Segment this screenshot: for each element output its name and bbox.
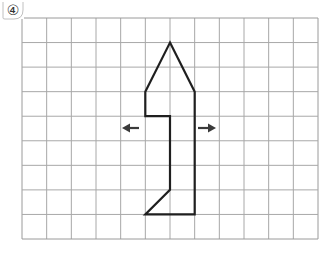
right-arrow-icon bbox=[198, 124, 216, 133]
left-arrow-icon bbox=[122, 124, 139, 133]
grid-diagram: ④ bbox=[0, 0, 336, 253]
problem-number-badge: ④ bbox=[0, 0, 24, 19]
problem-number: ④ bbox=[7, 2, 20, 18]
